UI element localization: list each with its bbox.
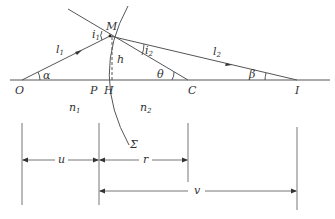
incident-ray-arrow-icon xyxy=(75,50,82,55)
label-angle-theta: θ xyxy=(157,68,164,81)
label-medium-n2: n2 xyxy=(140,101,152,115)
label-point-o: O xyxy=(15,84,24,97)
label-point-p: P xyxy=(89,84,98,97)
label-height-h: h xyxy=(117,53,124,66)
label-point-m: M xyxy=(105,20,118,33)
label-angle-beta: β xyxy=(248,68,255,81)
angle-theta-arc xyxy=(172,72,174,80)
label-angle-i1: i1 xyxy=(92,28,100,42)
label-dim-v: v xyxy=(194,184,201,197)
refraction-diagram: M O P H C I l1 l2 i1 i2 α θ β h n1 n2 Σ … xyxy=(0,0,335,219)
label-dim-r: r xyxy=(143,153,149,166)
incident-ray xyxy=(22,36,110,80)
refracted-ray xyxy=(110,36,297,80)
label-surface-sigma: Σ xyxy=(129,138,138,151)
label-point-i: I xyxy=(294,84,300,97)
angle-alpha-arc xyxy=(38,72,40,80)
point-m-dot xyxy=(109,35,112,38)
label-ray-l2: l2 xyxy=(213,45,222,59)
label-ray-l1: l1 xyxy=(56,43,64,57)
label-point-c: C xyxy=(188,84,197,97)
angle-beta-arc xyxy=(265,73,266,80)
label-point-h: H xyxy=(103,84,114,97)
normal-line xyxy=(68,9,188,80)
label-medium-n1: n1 xyxy=(69,101,81,115)
label-dim-u: u xyxy=(58,153,65,166)
angle-i1-arc xyxy=(101,31,102,40)
label-angle-alpha: α xyxy=(43,69,51,82)
